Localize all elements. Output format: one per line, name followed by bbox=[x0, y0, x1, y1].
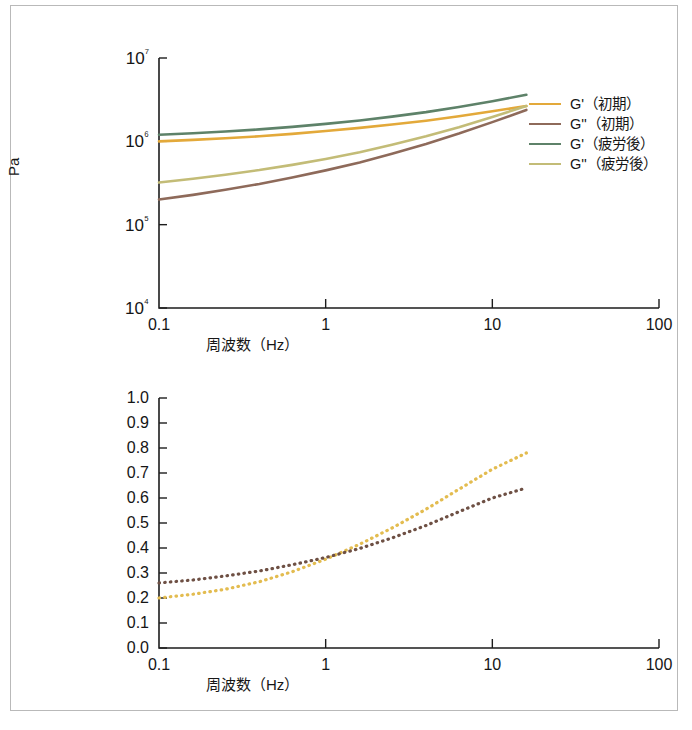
legend-item: G''（疲労後） bbox=[529, 154, 657, 174]
legend-item: G'（疲労後） bbox=[529, 134, 657, 154]
chart-modulus: 10⁴10⁵10⁶10⁷0.1110100 周波数（Hz） Pa G'（初期） … bbox=[11, 36, 679, 356]
figure-frame: 10⁴10⁵10⁶10⁷0.1110100 周波数（Hz） Pa G'（初期） … bbox=[10, 5, 678, 711]
legend-item-label: G'（初期） bbox=[570, 97, 640, 112]
legend-item-label: G''（疲労後） bbox=[570, 157, 657, 172]
legend-item: G''（初期） bbox=[529, 114, 657, 134]
svg-text:0.3: 0.3 bbox=[127, 564, 149, 581]
svg-text:0.1: 0.1 bbox=[148, 316, 170, 333]
svg-text:0.0: 0.0 bbox=[127, 639, 149, 656]
svg-text:10: 10 bbox=[483, 316, 501, 333]
svg-text:1: 1 bbox=[321, 656, 330, 673]
svg-text:100: 100 bbox=[646, 316, 673, 333]
svg-text:0.6: 0.6 bbox=[127, 489, 149, 506]
svg-text:0.9: 0.9 bbox=[127, 414, 149, 431]
tandelta-x-axis-title: 周波数（Hz） bbox=[206, 673, 299, 694]
legend-item: G'（初期） bbox=[529, 94, 657, 114]
svg-text:0.7: 0.7 bbox=[127, 464, 149, 481]
svg-text:1.0: 1.0 bbox=[127, 389, 149, 406]
legend-item-label: G'（疲労後） bbox=[570, 137, 654, 152]
series-line bbox=[159, 488, 526, 583]
svg-text:100: 100 bbox=[646, 656, 673, 673]
legend-line-swatch-icon bbox=[529, 163, 561, 165]
svg-text:0.1: 0.1 bbox=[148, 656, 170, 673]
modulus-plot-area: 10⁴10⁵10⁶10⁷0.1110100 bbox=[11, 36, 679, 356]
modulus-legend: G'（初期） G''（初期） G'（疲労後） G''（疲労後） bbox=[529, 94, 657, 174]
svg-text:0.1: 0.1 bbox=[127, 614, 149, 631]
legend-line-swatch-icon bbox=[529, 123, 561, 125]
svg-text:0.5: 0.5 bbox=[127, 514, 149, 531]
svg-text:0.8: 0.8 bbox=[127, 439, 149, 456]
legend-line-swatch-icon bbox=[529, 103, 561, 105]
svg-text:10⁶: 10⁶ bbox=[125, 129, 149, 151]
series-line bbox=[159, 453, 526, 598]
svg-text:0.4: 0.4 bbox=[127, 539, 149, 556]
series-line bbox=[159, 106, 526, 183]
svg-text:10: 10 bbox=[483, 656, 501, 673]
svg-text:1: 1 bbox=[321, 316, 330, 333]
modulus-y-axis-title: Pa bbox=[5, 158, 22, 176]
legend-item-label: G''（初期） bbox=[570, 117, 643, 132]
tandelta-plot-area: 0.00.10.20.30.40.50.60.70.80.91.00.11101… bbox=[11, 376, 679, 696]
legend-line-swatch-icon bbox=[529, 143, 561, 145]
svg-text:10⁷: 10⁷ bbox=[126, 46, 149, 68]
svg-text:0.2: 0.2 bbox=[127, 589, 149, 606]
chart-tandelta: 0.00.10.20.30.40.50.60.70.80.91.00.11101… bbox=[11, 376, 679, 696]
modulus-x-axis-title: 周波数（Hz） bbox=[206, 333, 299, 354]
svg-text:10⁴: 10⁴ bbox=[125, 296, 149, 318]
svg-text:10⁵: 10⁵ bbox=[125, 213, 149, 235]
